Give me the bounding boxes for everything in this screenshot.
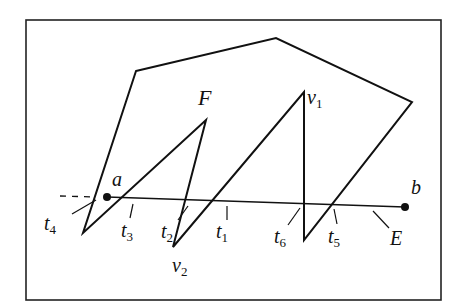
frame-border [26,20,441,300]
label-t2: t2 [161,220,173,245]
polygon-F [83,38,412,247]
label-t6: t6 [274,225,287,250]
label-v1: v1 [307,86,322,111]
point-a [103,193,111,201]
label-v2: v2 [172,254,187,279]
label-t4: t4 [44,212,57,237]
point-b [401,203,409,211]
segment-E [107,197,405,207]
leader-t3 [130,204,133,218]
leader-t5 [334,209,337,224]
diagram-canvas: F a b E v1 v2 t4 t3 t2 t1 t6 t5 [0,0,457,308]
label-t1: t1 [216,220,228,245]
leader-E [373,211,389,228]
label-t5: t5 [328,225,340,250]
label-t3: t3 [121,219,133,244]
label-a: a [112,168,122,190]
leader-t6 [288,208,300,225]
dashed-extension [60,196,96,197]
label-E: E [389,227,402,249]
label-b: b [411,176,421,198]
label-F: F [197,85,212,110]
